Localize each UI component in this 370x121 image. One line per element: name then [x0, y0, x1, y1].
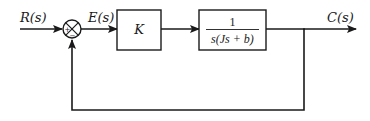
minus-sign: − [70, 32, 76, 40]
plant-denominator: s(Js + b) [211, 32, 254, 46]
plant-numerator: 1 [230, 15, 236, 29]
controller-gain-label: K [133, 22, 145, 37]
feedback-path [72, 29, 304, 110]
block-diagram: R(s) + − E(s) K 1 s(Js + b) C(s) [0, 0, 370, 121]
output-signal-label: C(s) [327, 10, 354, 25]
input-signal-label: R(s) [19, 10, 47, 25]
error-signal-label: E(s) [87, 10, 114, 25]
summing-junction: + − [63, 20, 81, 40]
takeoff-point [303, 28, 305, 30]
